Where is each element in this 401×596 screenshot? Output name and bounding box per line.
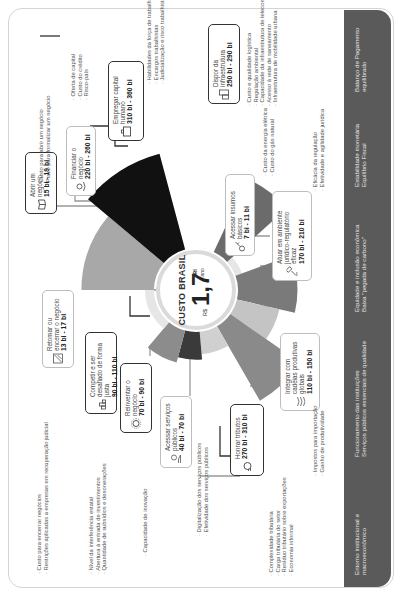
node-label: Financiar o negócio	[70, 148, 84, 179]
podium-icon	[96, 399, 107, 410]
node-label: Competir e ser desafiado de forma justa	[89, 335, 111, 397]
list-item: · Judicialização e risco trabalhista	[159, 0, 166, 84]
list-item: · Quantidade de subsídios e desonerações	[101, 463, 108, 574]
node-honrar-tributos[interactable]: Honrar tributos 270 bi - 310 bi	[230, 404, 264, 476]
list-item: · Eficácia da regulação	[312, 109, 319, 191]
node-ambiente-juridico[interactable]: Atuar em ambiente jurídico-regulatório e…	[272, 191, 312, 281]
footer-item: Equidade e inclusão econômica	[353, 225, 360, 312]
node-label: Acessar insumos básicos	[229, 191, 243, 239]
footer-group-3: Estabilidade monetária Equilíbrio Fiscal	[353, 124, 367, 187]
node-value: 310 bi - 360 bi	[126, 66, 133, 124]
list-item: · Complexidade tributária	[268, 477, 275, 576]
node-financiar-negocio[interactable]: Financiar o negócio 220 bi - 260 bi	[66, 126, 96, 196]
list-item: · Infraestrutura de mobilidade urbana	[272, 0, 279, 106]
center-per: /ano	[199, 268, 205, 278]
infographic-stage: Abrir um negócio 15 bi - 19 bi Financiar…	[0, 0, 401, 596]
hand-globe-icon	[171, 453, 182, 464]
list-item: · Custo para abrir um negócio	[38, 95, 45, 186]
footer-item: Balanço de Pagamento equilibrado	[353, 17, 367, 92]
node-dispor-infraestrutura[interactable]: Dispor da infraestrutura 250 bi - 290 bi	[208, 24, 240, 104]
list-item: · Efetividade dos serviços públicos	[203, 443, 210, 536]
list-tributos: · Complexidade tributária · Carga tribut…	[268, 477, 294, 576]
key-icon	[235, 241, 246, 252]
node-retomar-encerrar[interactable]: Retomar ou encerrar o negócio 13 bi - 17…	[42, 290, 74, 368]
list-item: · Ganho de produtividade	[319, 405, 326, 476]
node-value: 110 bi - 150 bi	[306, 338, 313, 394]
list-reinventar: · Capacidade de inovação	[142, 489, 149, 556]
list-item: · Regulação ambiental	[253, 0, 260, 106]
footer-title-text: Entorno institucional e macroeconômico	[353, 495, 367, 575]
list-item: · Impostos para importação	[312, 405, 319, 476]
list-item: · Resíduo tributário sobre exportações	[281, 477, 288, 576]
list-item: · Capacidade de inovação	[142, 489, 149, 556]
list-infraestrutura: · Custo e qualidade logística · Regulaçã…	[246, 0, 279, 106]
list-item: · Risco-país	[83, 54, 90, 100]
footer-title: Entorno institucional e macroeconômico	[353, 495, 367, 575]
list-item: · Efetividade e agilidade jurídica	[319, 109, 326, 191]
footer-item: Funcionamento das instituições	[353, 341, 360, 457]
footer-item: Estabilidade monetária	[353, 124, 360, 187]
list-item: · Oferta de capital	[70, 54, 77, 100]
globe-chain-icon	[295, 396, 306, 407]
node-value: 270 bi - 310 bi	[241, 409, 248, 459]
custo-brasil-center: CUSTO BRASIL R$ 1,7 TRI /ano	[156, 250, 236, 330]
node-acessar-servicos[interactable]: Acessar serviços públicos 40 bi - 70 bi	[160, 396, 192, 468]
node-reinventar-negocio[interactable]: Reinventar o negócio 70 bi - 90 bi	[120, 363, 152, 433]
buildings-icon	[219, 89, 230, 100]
list-servicos: · Digitalização dos serviços públicos · …	[196, 443, 209, 536]
center-unit: TRI	[192, 269, 198, 278]
list-item: · Habilidades da força de trabalho	[146, 0, 153, 84]
footer-item: Equilíbrio Fiscal	[360, 124, 367, 187]
list-item: · Custo do gás natural	[269, 108, 276, 176]
node-integrar-cadeias[interactable]: Integrar com cadeias produtivas globais …	[280, 333, 320, 411]
footer-band: Entorno institucional e macroeconômico F…	[344, 10, 391, 587]
node-value: 13 bi - 17 bi	[60, 295, 67, 351]
restart-icon	[53, 353, 64, 364]
node-label: Empregar capital humano	[112, 76, 126, 124]
list-item: · Prazo para formalizar um negócio	[45, 95, 52, 186]
node-empregar-capital[interactable]: Empregar capital humano 310 bi - 360 bi	[108, 61, 144, 141]
list-item: · Custo da energia elétrica	[262, 108, 269, 176]
gear-bulb-icon	[131, 418, 142, 429]
list-item: · Encargos trabalhistas	[153, 0, 160, 84]
node-value: 250 bi - 290 bi	[226, 29, 233, 87]
node-value: 40 bi - 70 bi	[178, 401, 185, 451]
node-value: 70 bi - 90 bi	[138, 368, 145, 416]
node-competir[interactable]: Competir e ser desafiado de forma justa …	[85, 332, 117, 414]
node-acessar-insumos[interactable]: Acessar insumos básicos 7 bi - 11 bi	[225, 174, 255, 256]
node-label: Acessar serviços públicos	[164, 403, 178, 451]
list-item: · Custo para encerrar negócios	[36, 422, 43, 574]
list-empregar: · Habilidades da força de trabalho · Enc…	[146, 0, 166, 84]
node-value: 220 bi - 260 bi	[84, 131, 91, 179]
briefcase-icon	[121, 126, 132, 137]
node-label: Integrar com cadeias produtivas globais	[284, 336, 306, 394]
node-label: Dispor da infraestrutura	[212, 50, 226, 87]
list-item: · Digitalização dos serviços públicos	[196, 443, 203, 536]
list-item: · Carga tributária do setor	[275, 477, 282, 576]
list-integrar: · Impostos para importação · Ganho de pr…	[312, 405, 325, 476]
footer-group-2: Equidade e inclusão econômica Baixa "peg…	[353, 225, 367, 312]
list-competir: · Nível da interferência estatal · Abert…	[88, 463, 108, 574]
node-value: 170 bi - 210 bi	[298, 196, 305, 264]
list-item: · Restrições aplicadas a empresas em rec…	[43, 422, 50, 574]
list-juridico: · Eficácia da regulação · Efetividade e …	[312, 109, 325, 191]
gavel-icon	[287, 266, 298, 277]
list-financiar: · Oferta de capital · Custo do crédito ·…	[70, 54, 90, 100]
list-item: · Acesso à rede de saneamento	[266, 0, 273, 106]
center-title: CUSTO BRASIL	[177, 254, 187, 326]
footer-group-4: Balanço de Pagamento equilibrado	[353, 17, 367, 92]
list-item: · Custo do crédito	[77, 54, 84, 100]
node-value: 90 bi - 110 bi	[111, 337, 118, 397]
coins-icon	[242, 461, 253, 472]
node-label: Reinventar o negócio	[124, 380, 138, 416]
money-hands-icon	[76, 181, 87, 192]
node-label: Atuar em ambiente jurídico-regulatório e…	[276, 196, 298, 264]
list-item: · Nível da interferência estatal	[88, 463, 95, 574]
list-retomar: · Custo para encerrar negócios · Restriç…	[36, 422, 49, 574]
list-item: · Capacidade da infraestrutura de teleco…	[259, 0, 266, 106]
list-abrir: · Custo para abrir um negócio · Prazo pa…	[38, 95, 51, 186]
list-item: · Abertura à entrada de investimentos	[95, 463, 102, 574]
footer-item: Baixa "pegada de carbono"	[360, 225, 367, 312]
book-icon	[36, 199, 47, 210]
list-item: · Economia informal	[288, 477, 295, 576]
